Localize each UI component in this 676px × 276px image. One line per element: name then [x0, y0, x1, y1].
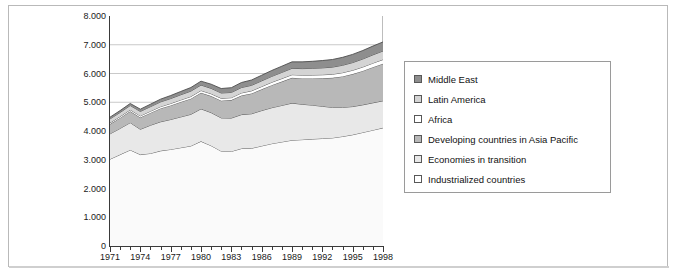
- figure-frame-shadow: [9, 266, 669, 268]
- x-axis-tick-mark: [282, 246, 283, 250]
- legend-item[interactable]: Industrialized countries: [414, 169, 610, 189]
- x-axis-tick-mark: [221, 246, 222, 250]
- legend-item[interactable]: Africa: [414, 109, 610, 129]
- x-axis-tick-mark: [312, 246, 313, 250]
- y-axis-tick-label: 1.000: [83, 212, 106, 222]
- chart-figure: Carbon Dioxide Emissions (MtC) 01.0002.0…: [0, 0, 676, 276]
- x-axis-tick-mark: [161, 246, 162, 250]
- x-axis-tick-mark: [343, 246, 344, 250]
- stacked-area-series: [110, 16, 383, 246]
- x-axis-tick-label: 1977: [161, 252, 181, 262]
- y-axis-tick-labels: 01.0002.0003.0004.0005.0006.0007.0008.00…: [60, 0, 106, 276]
- legend-item[interactable]: Latin America: [414, 89, 610, 109]
- x-axis-tick-mark: [373, 246, 374, 250]
- x-axis-tick-label: 1974: [130, 252, 150, 262]
- y-axis-tick-label: 3.000: [83, 155, 106, 165]
- x-axis-tick-mark: [130, 246, 131, 250]
- legend-label: Industrialized countries: [428, 174, 525, 185]
- x-axis-tick-labels: 1971197419771980198319861989199219951998: [110, 252, 383, 266]
- x-axis-tick-mark: [191, 246, 192, 250]
- y-axis-tick-label: 8.000: [83, 11, 106, 21]
- legend-swatch-icon: [414, 135, 422, 143]
- legend-label: Developing countries in Asia Pacific: [428, 134, 578, 145]
- y-axis-tick-label: 6.000: [83, 69, 106, 79]
- x-axis-tick-label: 1986: [252, 252, 272, 262]
- y-axis-tick-label: 2.000: [83, 184, 106, 194]
- x-axis-tick-label: 1998: [373, 252, 393, 262]
- legend-label: Africa: [428, 114, 452, 125]
- legend-label: Middle East: [428, 74, 478, 85]
- x-axis-tick-mark: [272, 246, 273, 250]
- legend-swatch-icon: [414, 115, 422, 123]
- legend-swatch-icon: [414, 75, 422, 83]
- legend-item[interactable]: Developing countries in Asia Pacific: [414, 129, 610, 149]
- legend-swatch-icon: [414, 95, 422, 103]
- legend-item[interactable]: Economies in transition: [414, 149, 610, 169]
- legend-swatch-icon: [414, 175, 422, 183]
- x-axis-tick-label: 1992: [312, 252, 332, 262]
- x-axis-tick-mark: [241, 246, 242, 250]
- x-axis-tick-mark: [252, 246, 253, 250]
- x-axis-tick-label: 1995: [343, 252, 363, 262]
- x-axis-tick-mark: [302, 246, 303, 250]
- x-axis-tick-label: 1989: [282, 252, 302, 262]
- legend-label: Economies in transition: [428, 154, 526, 165]
- x-axis-tick-label: 1980: [191, 252, 211, 262]
- x-axis-tick-mark: [120, 246, 121, 250]
- x-axis-tick-mark: [181, 246, 182, 250]
- x-axis-tick-mark: [332, 246, 333, 250]
- y-axis-tick-label: 4.000: [83, 126, 106, 136]
- legend-label: Latin America: [428, 94, 486, 105]
- legend-swatch-icon: [414, 155, 422, 163]
- plot-area: [110, 16, 383, 246]
- x-axis-tick-mark: [363, 246, 364, 250]
- y-axis-tick-label: 5.000: [83, 97, 106, 107]
- x-axis-tick-label: 1983: [221, 252, 241, 262]
- y-axis-tick-label: 7.000: [83, 40, 106, 50]
- legend-item[interactable]: Middle East: [414, 69, 610, 89]
- x-axis-tick-mark: [211, 246, 212, 250]
- chart-legend: Middle EastLatin AmericaAfricaDeveloping…: [404, 61, 611, 193]
- x-axis-tick-mark: [150, 246, 151, 250]
- x-axis-tick-label: 1971: [100, 252, 120, 262]
- y-axis-tick-label: 0: [101, 241, 106, 251]
